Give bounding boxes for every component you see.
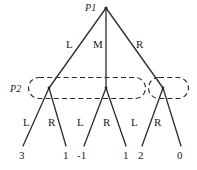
- game-tree-diagram: P1 P2 L M R L R L R L R 3 1 -1 1 2 0: [0, 0, 197, 170]
- payoff-label-2: 1: [63, 150, 69, 161]
- tree-edges-svg: [0, 0, 197, 170]
- node-label-p1: P1: [85, 3, 97, 13]
- action-label-p2mid-L: L: [77, 117, 84, 128]
- action-label-p2mid-R: R: [103, 117, 110, 128]
- action-label-p2left-R: R: [48, 117, 55, 128]
- node-label-p2: P2: [10, 84, 22, 94]
- payoff-label-4: 1: [123, 150, 129, 161]
- node-p2-right-dot: [162, 87, 165, 90]
- payoff-label-6: 0: [177, 150, 183, 161]
- node-p2-left-dot: [48, 87, 51, 90]
- payoff-label-5: 2: [138, 150, 144, 161]
- node-p2-middle-dot: [105, 87, 108, 90]
- action-label-root-L: L: [66, 39, 73, 50]
- edge-p2right-R: [163, 88, 181, 146]
- edge-root-R: [106, 8, 163, 88]
- node-root-dot: [104, 6, 107, 9]
- action-label-p2left-L: L: [23, 117, 30, 128]
- right-info-set: [149, 78, 189, 99]
- action-label-root-M: M: [93, 39, 103, 50]
- payoff-label-3: -1: [77, 150, 86, 161]
- action-label-p2right-L: L: [131, 117, 138, 128]
- action-label-root-R: R: [136, 39, 143, 50]
- payoff-label-1: 3: [19, 150, 25, 161]
- action-label-p2right-R: R: [154, 117, 161, 128]
